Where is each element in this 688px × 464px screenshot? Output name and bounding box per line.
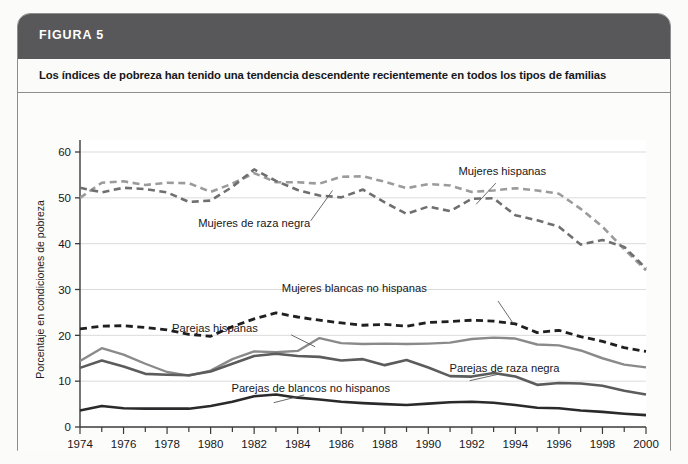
y-tick-label: 30 [58,284,71,296]
y-tick-label: 10 [58,375,71,387]
y-tick-label: 40 [58,238,71,250]
y-tick-label: 60 [58,146,71,158]
x-tick-label: 1998 [590,438,616,450]
x-tick-label: 1980 [198,438,224,450]
chart-canvas: 0102030405060197419761978198019821984198… [18,93,672,451]
x-tick-label: 2000 [633,438,659,450]
series-label: Parejas de raza negra [449,362,560,374]
x-tick-label: 1982 [241,438,267,450]
x-tick-label: 1994 [503,438,529,450]
x-tick-label: 1990 [416,438,442,450]
x-tick-label: 1984 [285,438,311,450]
y-tick-label: 50 [58,192,71,204]
x-tick-label: 1978 [154,438,180,450]
chart-body: 0102030405060197419761978198019821984198… [18,93,670,451]
y-tick-label: 0 [65,421,71,433]
y-tick-label: 20 [58,330,71,342]
x-tick-label: 1976 [111,438,137,450]
y-axis-title: Porcentaje en condiciones de pobreza [34,200,46,379]
x-tick-label: 1992 [459,438,485,450]
figure-subtitle: Los índices de pobreza han tenido una te… [39,69,606,81]
x-tick-label: 1996 [546,438,572,450]
x-tick-label: 1988 [372,438,398,450]
figure-header-band: FIGURA 5 [18,14,670,59]
x-tick-label: 1986 [328,438,354,450]
series-label: Parejas hispanas [172,322,258,334]
line-chart: 0102030405060197419761978198019821984198… [18,93,672,451]
series-label: Mujeres hispanas [458,165,546,177]
series-label: Parejas de blancos no hispanos [231,382,390,394]
series-label: Mujeres de raza negra [198,217,311,229]
figure-number-label: FIGURA 5 [39,28,104,42]
figure-subtitle-band: Los índices de pobreza han tenido una te… [18,59,670,93]
series-label: Mujeres blancas no hispanas [282,282,427,294]
page-root: FIGURA 5 Los índices de pobreza han teni… [0,0,688,464]
x-tick-label: 1974 [67,438,93,450]
figure-card: FIGURA 5 Los índices de pobreza han teni… [17,13,671,451]
